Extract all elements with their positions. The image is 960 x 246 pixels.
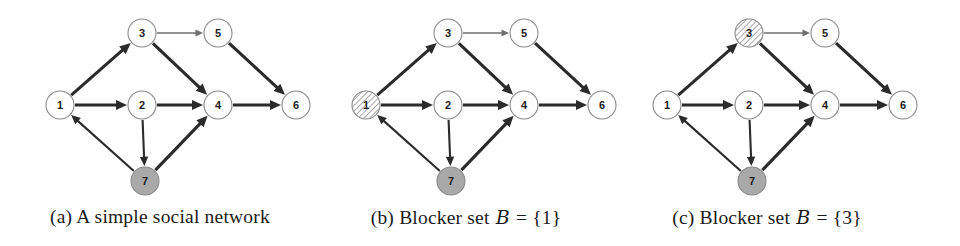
- node-label-3: 3: [139, 27, 145, 39]
- node-label-2: 2: [139, 99, 145, 111]
- edge-7-to-1: [377, 115, 440, 171]
- caption-a: (a) A simple social network: [0, 206, 320, 228]
- node-label-3: 3: [445, 27, 451, 39]
- edge-1-to-3: [678, 43, 737, 95]
- caption-prefix: (a): [50, 206, 72, 227]
- edge-5-to-6: [229, 43, 285, 95]
- arrowhead: [192, 100, 203, 110]
- arrowhead: [140, 157, 148, 166]
- node-label-1: 1: [57, 99, 63, 111]
- node-3-blocker[interactable]: 3: [735, 19, 763, 47]
- node-5[interactable]: 5: [204, 19, 232, 47]
- edge-1-to-2: [682, 100, 734, 110]
- node-3[interactable]: 3: [434, 19, 462, 47]
- node-label-6: 6: [900, 99, 906, 111]
- edge-1-to-2: [75, 100, 127, 110]
- caption-text: Blocker set: [399, 207, 489, 228]
- node-1-blocker[interactable]: 1: [352, 91, 380, 119]
- node-label-5: 5: [822, 27, 828, 39]
- edge-3-to-4: [760, 43, 814, 94]
- edge-7-to-1: [678, 115, 741, 171]
- panel-b: 1234567(b) Blocker set B = {1}: [306, 0, 626, 246]
- arrowhead: [270, 100, 281, 110]
- node-5[interactable]: 5: [510, 19, 538, 47]
- node-label-1: 1: [363, 99, 369, 111]
- node-label-1: 1: [664, 99, 670, 111]
- node-1[interactable]: 1: [46, 91, 74, 119]
- node-label-7: 7: [749, 175, 755, 187]
- node-label-6: 6: [599, 99, 605, 111]
- edge-2-to-7: [140, 120, 148, 166]
- panel-c: 1234567(c) Blocker set B = {3}: [607, 0, 927, 246]
- caption-text: Blocker set: [700, 207, 790, 228]
- caption-blocker-set: {3}: [833, 207, 862, 228]
- arrowhead: [747, 157, 755, 166]
- graph-diagram-c: 1234567: [607, 0, 927, 205]
- node-2[interactable]: 2: [128, 91, 156, 119]
- arrowhead: [116, 100, 127, 110]
- node-label-5: 5: [215, 27, 221, 39]
- arrowhead: [502, 30, 509, 37]
- node-3[interactable]: 3: [128, 19, 156, 47]
- edge-2-to-7: [446, 120, 454, 166]
- edge-7-to-4: [461, 116, 513, 170]
- caption-text: A simple social network: [76, 206, 270, 227]
- edge-4-to-6: [539, 100, 587, 110]
- node-6[interactable]: 6: [889, 91, 917, 119]
- edge-7-to-1: [71, 115, 134, 171]
- node-1[interactable]: 1: [653, 91, 681, 119]
- edge-2-to-4: [463, 100, 509, 110]
- edge-layer: [377, 30, 591, 171]
- edge-5-to-6: [535, 43, 591, 95]
- edge-1-to-3: [71, 43, 130, 95]
- caption-equals: =: [516, 207, 527, 228]
- arrowhead: [576, 100, 587, 110]
- edge-layer: [678, 30, 892, 171]
- graph-diagram-a: 1234567: [0, 0, 320, 205]
- edge-4-to-6: [233, 100, 281, 110]
- arrowhead: [799, 100, 810, 110]
- node-4[interactable]: 4: [204, 91, 232, 119]
- node-7-seed[interactable]: 7: [437, 167, 465, 195]
- edge-5-to-6: [836, 43, 892, 95]
- node-5[interactable]: 5: [811, 19, 839, 47]
- node-label-6: 6: [293, 99, 299, 111]
- arrowhead: [446, 157, 454, 166]
- node-7-seed[interactable]: 7: [738, 167, 766, 195]
- figure-container: 1234567(a) A simple social network123456…: [0, 0, 960, 246]
- edge-3-to-4: [459, 43, 513, 94]
- node-label-4: 4: [215, 99, 222, 111]
- caption-prefix: (b): [371, 207, 394, 228]
- arrowhead: [723, 100, 734, 110]
- caption-blocker-set: {1}: [532, 207, 561, 228]
- edge-3-to-5: [157, 30, 203, 37]
- caption-equals: =: [816, 207, 827, 228]
- node-4[interactable]: 4: [811, 91, 839, 119]
- arrowhead: [498, 100, 509, 110]
- node-label-5: 5: [521, 27, 527, 39]
- caption-blocker-symbol: B: [795, 206, 811, 228]
- caption-c: (c) Blocker set B = {3}: [607, 206, 927, 229]
- arrowhead: [803, 30, 810, 37]
- edge-1-to-3: [377, 43, 436, 95]
- edge-2-to-4: [157, 100, 203, 110]
- node-label-2: 2: [445, 99, 451, 111]
- edge-3-to-4: [153, 43, 207, 94]
- node-2[interactable]: 2: [434, 91, 462, 119]
- edge-layer: [71, 30, 285, 171]
- edge-3-to-5: [463, 30, 509, 37]
- arrowhead: [877, 100, 888, 110]
- node-label-3: 3: [746, 27, 752, 39]
- node-4[interactable]: 4: [510, 91, 538, 119]
- node-2[interactable]: 2: [735, 91, 763, 119]
- node-7-seed[interactable]: 7: [131, 167, 159, 195]
- edge-3-to-5: [764, 30, 810, 37]
- edge-7-to-4: [155, 116, 207, 170]
- arrowhead: [196, 30, 203, 37]
- node-label-4: 4: [521, 99, 528, 111]
- edge-1-to-2: [381, 100, 433, 110]
- caption-blocker-symbol: B: [495, 206, 511, 228]
- edge-7-to-4: [762, 116, 814, 170]
- node-label-2: 2: [746, 99, 752, 111]
- node-label-7: 7: [448, 175, 454, 187]
